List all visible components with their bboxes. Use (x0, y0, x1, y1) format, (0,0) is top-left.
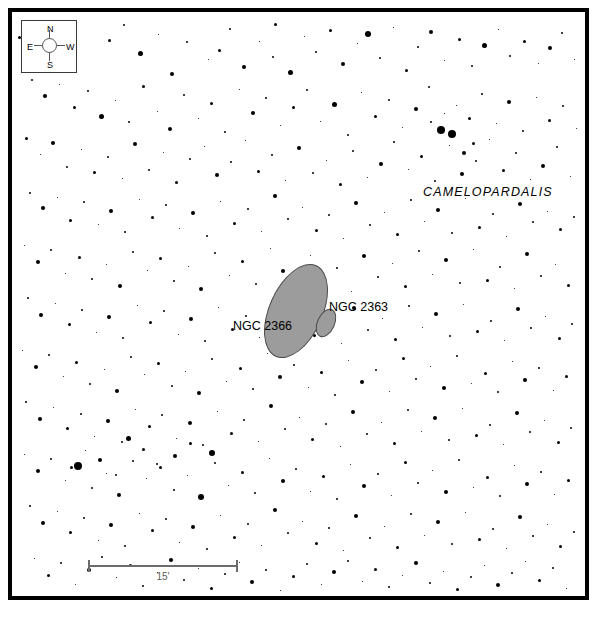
star-point (280, 125, 281, 126)
star-point (75, 584, 76, 585)
star-point (391, 495, 392, 496)
star-point (53, 407, 54, 408)
star-point (430, 121, 432, 123)
star-point (243, 419, 245, 421)
star-point (556, 146, 558, 148)
star-point (204, 340, 206, 342)
star-point (404, 285, 407, 288)
star-point (566, 588, 567, 589)
star-point (562, 105, 564, 107)
star-point (475, 434, 478, 437)
star-point (163, 152, 164, 153)
star-point (393, 442, 396, 445)
star-point (130, 356, 132, 358)
star-point (210, 587, 213, 590)
star-point (173, 280, 175, 282)
star-point (428, 86, 430, 88)
star-point (65, 273, 66, 274)
star-point (175, 181, 178, 184)
star-point (115, 474, 117, 476)
star-point (351, 410, 355, 414)
star-point (489, 424, 491, 426)
star-point (408, 169, 409, 170)
star-point (40, 154, 41, 155)
star-point (281, 479, 285, 483)
star-point (433, 416, 437, 420)
star-point (341, 62, 345, 66)
star-point (93, 171, 96, 174)
star-point (87, 90, 89, 92)
star-point (142, 448, 145, 451)
star-point (204, 146, 205, 147)
star-point (75, 361, 78, 364)
star-point (389, 391, 390, 392)
star-point (350, 464, 351, 465)
star-point (273, 508, 277, 512)
star-point (336, 498, 338, 500)
star-point (29, 505, 31, 507)
star-point (328, 214, 330, 216)
star-point (515, 411, 519, 415)
star-point (124, 231, 126, 233)
star-point (437, 126, 445, 134)
star-point (189, 442, 192, 445)
star-point (91, 278, 93, 280)
star-point (459, 282, 461, 284)
star-point (369, 537, 371, 539)
star-point (123, 24, 125, 26)
star-point (27, 297, 29, 299)
star-point (229, 275, 230, 276)
star-point (258, 441, 259, 442)
star-point (151, 216, 154, 219)
star-point (273, 194, 277, 198)
star-point (369, 224, 371, 226)
star-point (525, 252, 529, 256)
star-point (292, 106, 295, 109)
star-point (545, 316, 546, 317)
star-point (34, 365, 38, 369)
star-point (245, 140, 246, 141)
star-point (36, 260, 40, 264)
star-point (142, 585, 144, 587)
star-point (299, 417, 300, 418)
star-point (308, 387, 309, 388)
star-point (343, 238, 344, 239)
star-point (489, 139, 490, 140)
star-point (297, 146, 301, 150)
star-point (179, 228, 180, 229)
star-point (146, 478, 147, 479)
star-point (218, 49, 221, 52)
star-point (334, 394, 336, 396)
star-point (544, 420, 545, 421)
star-point (220, 201, 221, 202)
star-point (179, 542, 180, 543)
star-point (396, 233, 399, 236)
star-point (516, 307, 520, 311)
star-point (261, 231, 262, 232)
star-point (421, 431, 422, 432)
star-chart-figure: NGC 2366 NGC 2363 CAMELOPARDALIS N S E W… (0, 0, 601, 619)
star-point (306, 89, 308, 91)
star-point (159, 466, 162, 469)
star-point (538, 579, 541, 582)
star-point (460, 172, 464, 176)
star-point (66, 427, 69, 430)
star-point (351, 291, 352, 292)
star-point (36, 469, 40, 473)
star-point (261, 545, 262, 546)
star-point (272, 56, 274, 58)
star-point (214, 462, 216, 464)
star-point (348, 360, 349, 361)
star-point (523, 40, 526, 43)
star-point (410, 199, 412, 201)
star-point (247, 208, 249, 210)
star-point (392, 263, 393, 264)
star-point (83, 201, 85, 203)
star-point (559, 228, 562, 231)
star-point (128, 121, 130, 123)
star-point (198, 118, 199, 119)
star-point (573, 216, 575, 218)
star-point (267, 353, 268, 354)
star-point (139, 199, 140, 200)
star-point (558, 337, 561, 340)
